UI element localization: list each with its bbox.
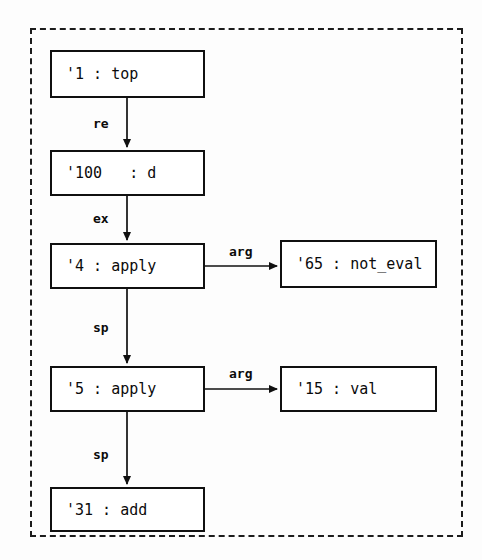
edge-label-sp-add: sp [93, 447, 109, 462]
node-label-val: '15 : val [282, 380, 377, 398]
node-label-not-eval: '65 : not_eval [282, 255, 422, 273]
node-not-eval[interactable]: '65 : not_eval [280, 240, 437, 288]
node-label-top: '1 : top [52, 65, 138, 83]
edge-label-ex: ex [93, 211, 109, 226]
edge-label-sp-apply: sp [93, 320, 109, 335]
node-d[interactable]: '100 : d [50, 150, 205, 196]
edge-label-arg-not-eval: arg [229, 244, 252, 259]
node-label-apply-5: '5 : apply [52, 380, 156, 398]
node-apply-4[interactable]: '4 : apply [50, 243, 205, 289]
node-top[interactable]: '1 : top [50, 50, 205, 98]
node-label-apply-4: '4 : apply [52, 257, 156, 275]
edge-label-re: re [93, 116, 109, 131]
node-label-add: '31 : add [52, 501, 147, 519]
node-label-d: '100 : d [52, 164, 156, 182]
edge-label-arg-val: arg [229, 366, 252, 381]
node-add[interactable]: '31 : add [50, 487, 205, 532]
node-val[interactable]: '15 : val [280, 366, 437, 412]
node-apply-5[interactable]: '5 : apply [50, 366, 205, 412]
diagram-canvas: '1 : top '100 : d '4 : apply '65 : not_e… [0, 0, 482, 560]
